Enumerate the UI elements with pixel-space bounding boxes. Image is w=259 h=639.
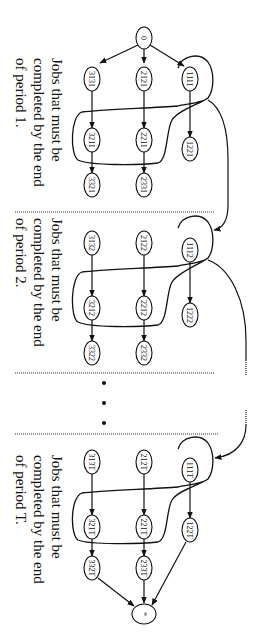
svg-text:313T: 313T	[87, 454, 96, 471]
label-line: of period T.	[12, 455, 30, 584]
svg-text:3212: 3212	[87, 300, 96, 316]
label-line: of period 2.	[12, 218, 30, 347]
period-2-label: Jobs that must be completed by the end o…	[12, 218, 66, 347]
svg-text:332T: 332T	[87, 560, 96, 577]
svg-text:1111: 1111	[185, 71, 194, 86]
svg-text:3211: 3211	[87, 132, 96, 148]
svg-text:2121: 2121	[139, 71, 148, 87]
svg-text:2331: 2331	[139, 177, 148, 193]
svg-text:3321: 3321	[87, 177, 96, 193]
label-line: completed by the end	[30, 218, 48, 347]
period-1-label: Jobs that must be completed by the end o…	[12, 58, 66, 187]
svg-text:1112: 1112	[185, 242, 194, 257]
svg-text:212T: 212T	[139, 454, 148, 471]
svg-text:2212: 2212	[139, 300, 148, 316]
period-connectors	[208, 100, 246, 458]
svg-text:3322: 3322	[87, 345, 96, 361]
label-line: of period 1.	[12, 58, 30, 187]
svg-text:221T: 221T	[139, 519, 148, 536]
svg-text:1221: 1221	[185, 141, 194, 157]
label-line: completed by the end	[30, 455, 48, 584]
svg-text:122T: 122T	[185, 522, 194, 539]
label-line: completed by the end	[30, 58, 48, 187]
svg-text:3132: 3132	[87, 235, 96, 251]
svg-text:*: *	[139, 612, 148, 616]
period-T-label: Jobs that must be completed by the end o…	[12, 455, 66, 584]
svg-text:1222: 1222	[185, 307, 194, 323]
ellipsis-dots	[102, 381, 106, 425]
svg-text:111T: 111T	[185, 462, 194, 478]
svg-text:2332: 2332	[139, 345, 148, 361]
svg-text:3131: 3131	[87, 71, 96, 87]
label-line: Jobs that must be	[48, 218, 66, 347]
svg-text:233T: 233T	[139, 560, 148, 577]
svg-text:2122: 2122	[139, 235, 148, 251]
label-line: Jobs that must be	[48, 455, 66, 584]
svg-text:2211: 2211	[139, 132, 148, 148]
label-line: Jobs that must be	[48, 58, 66, 187]
svg-text:321T: 321T	[87, 519, 96, 536]
svg-text:0: 0	[139, 36, 148, 40]
